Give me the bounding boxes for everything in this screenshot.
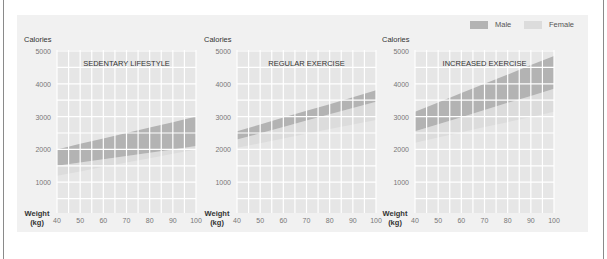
x-axis-title: Weight	[25, 209, 50, 218]
chart-title: REGULAR EXERCISE	[268, 59, 344, 68]
x-axis-unit: (kg)	[30, 218, 44, 227]
y-tick-label: 1000	[35, 179, 51, 186]
y-tick-label: 2000	[393, 146, 409, 153]
y-tick-label: 4000	[35, 81, 51, 88]
x-tick-label: 60	[457, 217, 465, 224]
x-axis-unit: (kg)	[388, 218, 402, 227]
x-tick-label: 100	[370, 217, 382, 224]
y-tick-label: 2000	[35, 146, 51, 153]
chart-2: REGULAR EXERCISECalories1000200030004000…	[204, 35, 382, 227]
y-axis-title: Calories	[204, 35, 232, 44]
x-tick-label: 90	[169, 217, 177, 224]
y-tick-label: 1000	[393, 179, 409, 186]
chart-title: SEDENTARY LIFESTYLE	[83, 59, 170, 68]
x-tick-label: 70	[123, 217, 131, 224]
x-tick-label: 80	[504, 217, 512, 224]
y-tick-label: 5000	[393, 48, 409, 55]
charts-svg: SEDENTARY LIFESTYLECalories1000200030004…	[0, 0, 607, 259]
x-axis-unit: (kg)	[210, 218, 224, 227]
x-tick-label: 80	[326, 217, 334, 224]
y-tick-label: 3000	[35, 114, 51, 121]
y-tick-label: 2000	[215, 146, 231, 153]
y-tick-label: 5000	[35, 48, 51, 55]
x-tick-label: 70	[481, 217, 489, 224]
x-tick-label: 70	[303, 217, 311, 224]
x-tick-label: 80	[146, 217, 154, 224]
x-tick-label: 50	[76, 217, 84, 224]
y-tick-label: 4000	[215, 81, 231, 88]
x-tick-label: 100	[548, 217, 560, 224]
y-axis-title: Calories	[382, 35, 410, 44]
x-tick-label: 100	[190, 217, 202, 224]
chart-3: INCREASED EXERCISECalories10002000300040…	[382, 35, 560, 227]
x-axis-title: Weight	[205, 209, 230, 218]
x-tick-label: 60	[279, 217, 287, 224]
x-tick-label: 90	[527, 217, 535, 224]
x-axis-title: Weight	[383, 209, 408, 218]
x-tick-label: 50	[256, 217, 264, 224]
x-tick-label: 40	[53, 217, 61, 224]
y-tick-label: 3000	[215, 114, 231, 121]
y-tick-label: 4000	[393, 81, 409, 88]
chart-title: INCREASED EXERCISE	[443, 59, 527, 68]
x-tick-label: 40	[233, 217, 241, 224]
x-tick-label: 50	[434, 217, 442, 224]
y-tick-label: 1000	[215, 179, 231, 186]
x-tick-label: 90	[349, 217, 357, 224]
x-tick-label: 60	[99, 217, 107, 224]
chart-1: SEDENTARY LIFESTYLECalories1000200030004…	[24, 35, 202, 227]
y-tick-label: 5000	[215, 48, 231, 55]
x-tick-label: 40	[411, 217, 419, 224]
y-axis-title: Calories	[24, 35, 52, 44]
y-tick-label: 3000	[393, 114, 409, 121]
